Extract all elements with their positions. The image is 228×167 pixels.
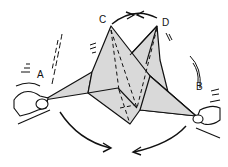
diagram-drawing <box>0 0 228 167</box>
label-d: D <box>162 18 169 28</box>
left-flap <box>44 72 92 100</box>
label-c: C <box>99 15 106 25</box>
label-b: B <box>196 82 203 92</box>
right-flap <box>140 76 196 116</box>
origami-diagram: A B C D <box>0 0 228 167</box>
label-a: A <box>37 70 44 80</box>
